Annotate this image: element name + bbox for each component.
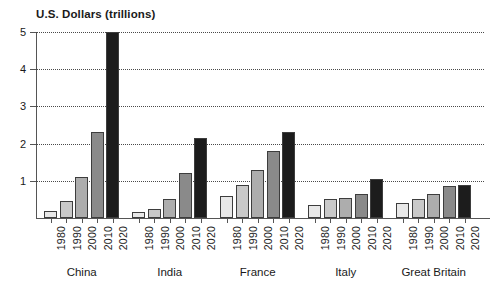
x-axis-year-label: 2010 — [102, 226, 114, 250]
x-axis-year-label: 1990 — [335, 226, 347, 250]
x-tick-mark — [201, 218, 202, 223]
bar — [412, 199, 425, 218]
x-tick-mark — [227, 218, 228, 223]
x-tick-mark — [113, 218, 114, 223]
country-group-label: India — [157, 266, 182, 278]
x-axis-year-label: 2020 — [293, 226, 305, 250]
x-axis-year-label: 1980 — [407, 226, 419, 250]
bar — [324, 199, 337, 218]
y-axis-tick-labels: 12345 — [0, 32, 26, 218]
x-axis-year-label: 1990 — [159, 226, 171, 250]
bar — [339, 198, 352, 218]
bar — [267, 151, 280, 218]
x-axis-year-label: 2000 — [350, 226, 362, 250]
x-axis-line — [36, 218, 490, 219]
bar — [44, 211, 57, 218]
chart-title: U.S. Dollars (trillions) — [36, 8, 155, 20]
bar — [194, 138, 207, 218]
x-tick-mark — [346, 218, 347, 223]
bar — [60, 201, 73, 218]
x-axis-year-label: 1980 — [55, 226, 67, 250]
y-tick-mark-1 — [30, 181, 36, 182]
x-axis-year-label: 2020 — [117, 226, 129, 250]
y-tick-label: 4 — [2, 63, 26, 75]
bar — [355, 194, 368, 218]
y-tick-label: 5 — [2, 26, 26, 38]
plot-area — [36, 32, 484, 218]
y-tick-label: 2 — [2, 138, 26, 150]
x-tick-mark — [403, 218, 404, 223]
x-axis-year-label: 2020 — [205, 226, 217, 250]
y-tick-mark-2 — [30, 144, 36, 145]
x-axis-year-label: 2010 — [278, 226, 290, 250]
x-axis-year-label: 2010 — [366, 226, 378, 250]
x-tick-mark — [258, 218, 259, 223]
y-tick-label: 1 — [2, 175, 26, 187]
x-axis-year-label: 1980 — [231, 226, 243, 250]
y-tick-mark-4 — [30, 69, 36, 70]
country-group-label: China — [67, 266, 97, 278]
x-axis-year-label: 2020 — [381, 226, 393, 250]
country-group-label: France — [240, 266, 276, 278]
x-axis-year-label: 2000 — [262, 226, 274, 250]
bar-chart: U.S. Dollars (trillions) 12345 198019902… — [0, 0, 490, 291]
x-tick-mark — [361, 218, 362, 223]
bar — [396, 203, 409, 218]
gridline-3 — [36, 106, 484, 107]
x-axis-year-label: 1990 — [71, 226, 83, 250]
bar — [148, 209, 161, 218]
x-axis-year-label: 2010 — [454, 226, 466, 250]
bar — [458, 185, 471, 218]
gridline-4 — [36, 69, 484, 70]
x-axis-year-label: 2000 — [438, 226, 450, 250]
bar — [91, 132, 104, 218]
bar — [308, 205, 321, 218]
bar — [370, 179, 383, 218]
x-tick-mark — [330, 218, 331, 223]
x-tick-mark — [170, 218, 171, 223]
x-tick-mark — [242, 218, 243, 223]
x-axis-year-label: 2010 — [190, 226, 202, 250]
y-tick-mark-3 — [30, 106, 36, 107]
x-tick-mark — [449, 218, 450, 223]
y-tick-mark-5 — [30, 32, 36, 33]
x-axis-year-label: 1990 — [247, 226, 259, 250]
x-axis-year-label: 2020 — [469, 226, 481, 250]
x-axis-year-label: 1980 — [319, 226, 331, 250]
bar — [443, 186, 456, 218]
x-tick-mark — [465, 218, 466, 223]
x-tick-mark — [418, 218, 419, 223]
x-tick-mark — [315, 218, 316, 223]
x-tick-mark — [97, 218, 98, 223]
x-tick-mark — [82, 218, 83, 223]
x-tick-mark — [51, 218, 52, 223]
bar — [282, 132, 295, 218]
x-axis-year-label: 1990 — [423, 226, 435, 250]
x-tick-mark — [377, 218, 378, 223]
x-axis-year-label: 2000 — [86, 226, 98, 250]
country-group-label: Italy — [335, 266, 356, 278]
bar — [75, 177, 88, 218]
x-tick-mark — [273, 218, 274, 223]
country-group-label: Great Britain — [401, 266, 466, 278]
bar — [163, 199, 176, 218]
bar — [427, 194, 440, 218]
x-tick-mark — [66, 218, 67, 223]
bar — [251, 170, 264, 218]
x-axis-year-label: 2000 — [174, 226, 186, 250]
bar — [179, 173, 192, 218]
bar — [106, 32, 119, 218]
x-tick-mark — [185, 218, 186, 223]
bar — [220, 196, 233, 218]
x-tick-mark — [434, 218, 435, 223]
gridline-5 — [36, 32, 484, 33]
x-tick-mark — [139, 218, 140, 223]
x-tick-mark — [154, 218, 155, 223]
bar — [236, 185, 249, 218]
y-tick-label: 3 — [2, 100, 26, 112]
x-axis-year-label: 1980 — [143, 226, 155, 250]
x-tick-mark — [289, 218, 290, 223]
